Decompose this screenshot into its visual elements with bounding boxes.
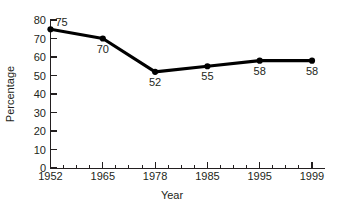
point-value-label-1978: 52: [149, 76, 161, 88]
x-tick-label-1999: 1999: [300, 170, 324, 182]
x-axis-title: Year: [161, 189, 184, 201]
point-value-label-1965: 70: [97, 43, 109, 55]
y-tick-label-50: 50: [34, 70, 46, 82]
x-tick-label-1985: 1985: [195, 170, 219, 182]
data-point-1952: [47, 26, 53, 32]
point-value-label-1995: 58: [254, 65, 266, 77]
data-series: 757052555858: [47, 16, 318, 88]
point-value-label-1999: 58: [306, 65, 318, 77]
point-value-label-1952: 75: [55, 16, 67, 28]
data-point-1978: [152, 69, 158, 75]
x-axis: 195219651978198519951999: [38, 162, 325, 182]
y-axis-ticks: [51, 20, 57, 168]
y-tick-label-30: 30: [34, 107, 46, 119]
data-point-1995: [257, 58, 263, 64]
data-point-1965: [100, 35, 106, 41]
x-tick-label-1995: 1995: [247, 170, 271, 182]
data-point-1985: [204, 63, 210, 69]
y-axis-title: Percentage: [4, 66, 16, 122]
x-axis-tick-labels: 195219651978198519951999: [38, 170, 324, 182]
series-line-percentage: [51, 29, 313, 72]
x-tick-label-1952: 1952: [38, 170, 62, 182]
y-tick-label-80: 80: [34, 14, 46, 26]
data-point-labels: 757052555858: [55, 16, 318, 88]
y-axis-tick-labels: 01020304050607080: [34, 14, 46, 174]
y-axis: 01020304050607080: [34, 14, 57, 174]
y-tick-label-10: 10: [34, 144, 46, 156]
y-tick-label-20: 20: [34, 125, 46, 137]
line-chart: 01020304050607080 1952196519781985199519…: [0, 0, 337, 214]
data-point-1999: [309, 58, 315, 64]
chart-canvas: 01020304050607080 1952196519781985199519…: [0, 0, 337, 214]
x-tick-label-1965: 1965: [91, 170, 115, 182]
y-tick-label-70: 70: [34, 33, 46, 45]
x-tick-label-1978: 1978: [143, 170, 167, 182]
y-tick-label-40: 40: [34, 88, 46, 100]
y-tick-label-60: 60: [34, 51, 46, 63]
point-value-label-1985: 55: [201, 70, 213, 82]
